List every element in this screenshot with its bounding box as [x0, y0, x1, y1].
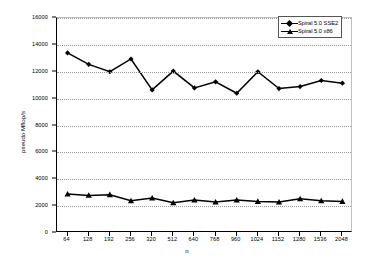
y-axis-tick-mark: [52, 178, 56, 179]
y-axis-tick-label: 8000: [4, 122, 48, 128]
x-axis-tick-label: 192: [104, 236, 114, 242]
y-axis-tick-mark: [52, 124, 56, 125]
x-axis-tick-mark: [193, 232, 194, 236]
x-axis-tick-label: 64: [63, 236, 69, 242]
x-axis-tick-label: 640: [189, 236, 199, 242]
y-axis-tick-label: 2000: [4, 202, 48, 208]
x-axis-tick-label: 2048: [335, 236, 348, 242]
y-axis-tick-mark: [52, 43, 56, 44]
x-axis-tick-mark: [67, 232, 68, 236]
gridline: [57, 126, 351, 127]
x-axis-tick-label: 256: [125, 236, 135, 242]
x-axis-tick-mark: [278, 232, 279, 236]
y-axis-tick-label: 4000: [4, 175, 48, 181]
diamond-marker-icon: [298, 84, 303, 89]
x-axis-tick-label: 128: [83, 236, 93, 242]
x-axis-tick-mark: [109, 232, 110, 236]
line-chart: pseudo Mflop/s n Spiral 5.0 SSE2Spiral 5…: [0, 0, 374, 264]
y-axis-tick-mark: [52, 70, 56, 71]
y-axis-tick-label: 14000: [4, 41, 48, 47]
y-axis-tick-mark: [52, 205, 56, 206]
x-axis-tick-mark: [215, 232, 216, 236]
y-axis-tick-label: 0: [4, 229, 48, 235]
legend-item: Spiral 5.0 SSE2: [281, 19, 338, 27]
x-axis-tick-mark: [151, 232, 152, 236]
diamond-marker-icon: [319, 78, 324, 83]
x-axis-tick-mark: [130, 232, 131, 236]
x-axis-tick-mark: [172, 232, 173, 236]
y-axis-tick-mark: [52, 232, 56, 233]
y-axis-title: pseudo Mflop/s: [19, 111, 26, 153]
x-axis-tick-label: 1024: [250, 236, 263, 242]
y-axis-tick-mark: [52, 17, 56, 18]
legend-item-label: Spiral 5.0 x86: [298, 27, 333, 35]
gridline: [57, 45, 351, 46]
x-axis-tick-label: 512: [167, 236, 177, 242]
x-axis-tick-mark: [257, 232, 258, 236]
gridline: [57, 99, 351, 100]
x-axis-tick-label: 320: [146, 236, 156, 242]
legend-item: Spiral 5.0 x86: [281, 27, 338, 35]
x-axis-tick-label: 1280: [293, 236, 306, 242]
legend-item-label: Spiral 5.0 SSE2: [298, 19, 338, 27]
y-axis-tick-label: 16000: [4, 14, 48, 20]
x-axis-tick-label: 1536: [314, 236, 327, 242]
y-axis-tick-mark: [52, 97, 56, 98]
x-axis-tick-label: 768: [210, 236, 220, 242]
gridline: [57, 72, 351, 73]
y-axis-tick-label: 12000: [4, 68, 48, 74]
x-axis-tick-label: 1152: [272, 236, 284, 242]
x-axis-tick-mark: [88, 232, 89, 236]
gridline: [57, 206, 351, 207]
y-axis-tick-label: 10000: [4, 95, 48, 101]
x-axis-title: n: [0, 248, 374, 254]
triangle-marker-icon: [281, 27, 298, 35]
y-axis-tick-mark: [52, 151, 56, 152]
x-axis-tick-mark: [341, 232, 342, 236]
x-axis-tick-mark: [236, 232, 237, 236]
legend: Spiral 5.0 SSE2Spiral 5.0 x86: [278, 16, 342, 38]
x-axis-tick-mark: [320, 232, 321, 236]
gridline: [57, 152, 351, 153]
plot-area: [56, 17, 352, 232]
x-axis-tick-label: 960: [231, 236, 241, 242]
diamond-marker-icon: [281, 19, 298, 27]
x-axis-tick-mark: [299, 232, 300, 236]
diamond-marker-icon: [340, 81, 345, 86]
y-axis-tick-label: 6000: [4, 148, 48, 154]
gridline: [57, 179, 351, 180]
